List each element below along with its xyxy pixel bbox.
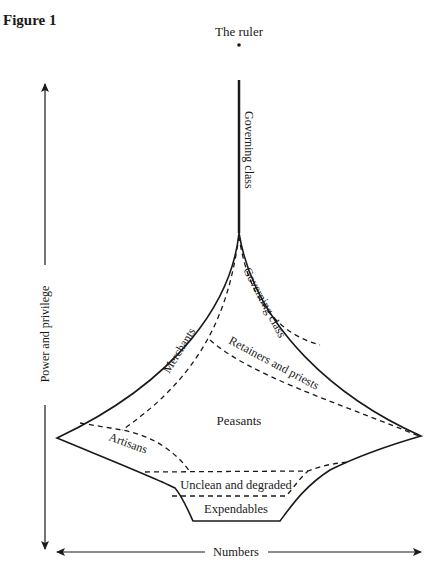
expendables-label: Expendables — [204, 502, 268, 516]
x-axis-label: Numbers — [213, 545, 259, 559]
y-axis-label: Power and privilege — [38, 286, 52, 383]
governing-class-inner-label: Governing class — [240, 265, 289, 340]
artisans-label: Artisans — [107, 430, 150, 457]
retainers-label: Retainers and priests — [227, 333, 322, 392]
merchants-label: Merchants — [160, 325, 199, 376]
unclean-label: Unclean and degraded — [180, 478, 292, 492]
governing-class-top-label: Governing class — [242, 111, 256, 189]
ruler-label: The ruler — [215, 24, 264, 39]
ruler-dot — [237, 43, 241, 47]
class-structure-diagram: The ruler Governing class Governing clas… — [0, 0, 442, 575]
peasants-label: Peasants — [217, 413, 262, 428]
unclean-top-boundary — [145, 462, 350, 472]
